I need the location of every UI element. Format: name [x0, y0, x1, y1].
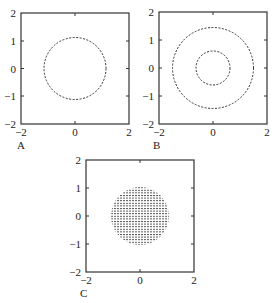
xtick-b-2: 2	[264, 126, 270, 138]
panel-c: 2 1 0 −1 −2 −2 0 2 C	[69, 154, 196, 299]
ytick-a-neg1: −1	[4, 90, 16, 102]
ytick-b-2: 2	[149, 6, 155, 18]
panel-b: 2 1 0 −1 −2 −2 0 2 B	[142, 6, 269, 151]
inner-circle-b	[196, 51, 230, 85]
outer-circle-b	[173, 28, 254, 109]
ytick-a-2: 2	[11, 7, 17, 19]
filled-disk-c	[108, 185, 172, 249]
panel-label-b: B	[153, 139, 160, 151]
ytick-c-2: 2	[76, 154, 82, 166]
ytick-a-1: 1	[11, 35, 17, 47]
panel-label-a: A	[17, 139, 25, 151]
xtick-c-neg2: −2	[80, 274, 92, 286]
ytick-c-1: 1	[76, 182, 82, 194]
xtick-c-2: 2	[191, 274, 197, 286]
xtick-a-2: 2	[126, 126, 132, 138]
axes-box-a	[21, 13, 129, 124]
ytick-c-0: 0	[76, 210, 82, 222]
ytick-c-neg1: −1	[69, 238, 81, 250]
xtick-c-0: 0	[137, 274, 143, 286]
ytick-b-neg1: −1	[142, 90, 154, 102]
panel-a: 2 1 0 −1 −2 −2 0 2 A	[4, 7, 131, 151]
xtick-b-0: 0	[210, 126, 216, 138]
circle-a	[44, 38, 106, 100]
panel-label-c: C	[80, 287, 87, 299]
axes-box-b	[159, 12, 267, 124]
xtick-a-0: 0	[72, 126, 78, 138]
xtick-a-neg2: −2	[15, 126, 27, 138]
ticks-b	[159, 12, 267, 124]
ytick-b-1: 1	[149, 34, 155, 46]
xtick-b-neg2: −2	[153, 126, 165, 138]
ticks-a	[21, 13, 129, 124]
ytick-b-0: 0	[149, 62, 155, 74]
figure: 2 1 0 −1 −2 −2 0 2 A 2 1 0 −1 −2 −2 0 2 …	[0, 0, 278, 303]
ytick-a-0: 0	[11, 63, 17, 75]
